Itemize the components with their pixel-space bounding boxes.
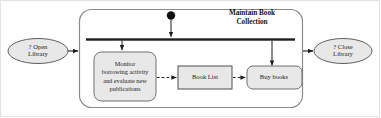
fork-bar <box>86 38 295 40</box>
container-title: Maintain Book Collection <box>200 9 304 27</box>
initial-node[interactable] <box>167 11 175 19</box>
buy-books-node[interactable] <box>247 66 302 89</box>
book-list-node[interactable] <box>178 66 232 89</box>
open-library-node[interactable] <box>8 39 68 64</box>
diagram-vector-layer <box>0 0 381 118</box>
close-library-node[interactable] <box>314 39 372 64</box>
monitor-activity-node[interactable] <box>94 52 156 101</box>
diagram-canvas: Maintain Book Collection ? Open Library … <box>0 0 381 118</box>
